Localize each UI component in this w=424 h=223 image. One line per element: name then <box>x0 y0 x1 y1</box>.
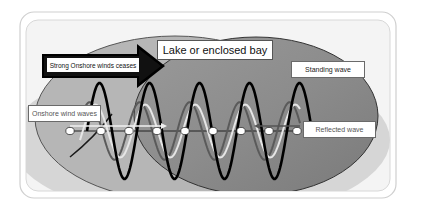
wave-node <box>181 127 189 134</box>
wave-node <box>265 127 273 134</box>
standing-wave-label: Standing wave <box>291 61 365 78</box>
standing-wave-diagram: Strong Onshore winds ceases Lake or encl… <box>0 0 424 223</box>
wave-node <box>209 127 217 134</box>
wave-nodes <box>66 127 301 134</box>
wave-node <box>237 127 245 134</box>
lake-label: Lake or enclosed bay <box>157 40 273 60</box>
onshore-wind-waves-label: Onshore wind waves <box>28 105 101 122</box>
wave-node <box>97 127 105 134</box>
wave-node <box>293 127 301 134</box>
wave-node <box>125 127 133 134</box>
wind-ceases-label: Strong Onshore winds ceases <box>47 58 139 72</box>
wave-node <box>66 127 74 134</box>
reflected-wave-label: Reflected wave <box>303 121 376 138</box>
wave-node <box>153 127 161 134</box>
